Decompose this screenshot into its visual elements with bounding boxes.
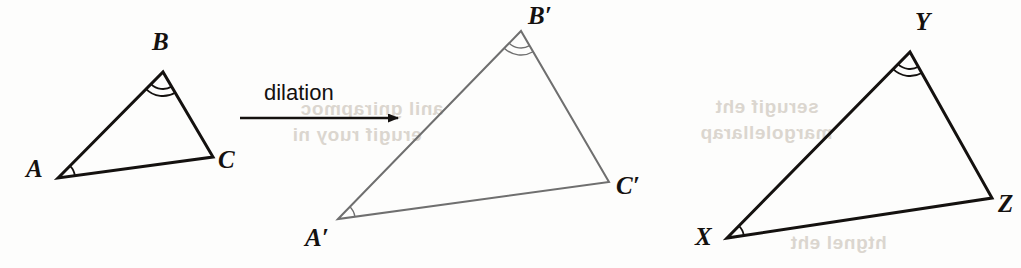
angle-arc-mark: [146, 89, 175, 96]
angle-arc-mark: [350, 207, 355, 217]
vertex-label-c-prime: C′: [616, 172, 640, 200]
vertex-label-c: C: [218, 146, 235, 174]
triangle-abc-outline: [58, 72, 213, 178]
vertex-label-z: Z: [998, 190, 1013, 218]
triangle-abc: [58, 72, 213, 178]
angle-arc-mark: [739, 226, 744, 236]
vertex-label-x: X: [695, 223, 712, 251]
vertex-label-a-prime: A′: [305, 224, 329, 252]
angle-arc-mark: [893, 69, 922, 76]
triangles-group: [58, 31, 992, 238]
angle-arc-mark: [509, 43, 529, 48]
angle-arc-mark: [504, 48, 533, 55]
vertex-label-b-prime: B′: [528, 2, 552, 30]
angle-arc-mark: [898, 64, 918, 69]
triangle-xyz-outline: [727, 52, 992, 238]
triangle-xyz: [727, 52, 992, 238]
vertex-label-b: B: [152, 28, 169, 56]
triangle-a-prime-b-prime-c-prime-outline: [338, 31, 609, 219]
angle-arc-mark: [151, 84, 172, 89]
vertex-label-y: Y: [915, 8, 930, 36]
triangle-a-prime-b-prime-c-prime: [338, 31, 609, 219]
angle-arc-mark: [70, 166, 75, 176]
dilation-label: dilation: [264, 80, 334, 106]
vertex-label-a: A: [26, 155, 43, 183]
geometry-figure-canvas: anil gnirapmocerugif ruoy niserugif ehtm…: [0, 0, 1021, 268]
